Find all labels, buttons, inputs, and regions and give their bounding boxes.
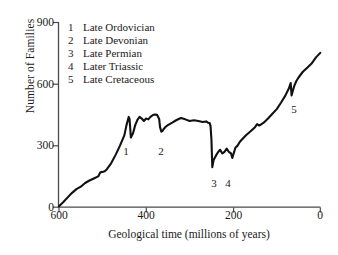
marker-5-late-cretaceous: 5 — [287, 104, 301, 115]
legend-number-2: 2 — [68, 34, 83, 47]
marker-4-later-triassic: 4 — [221, 178, 235, 189]
x-tick-0: 0 — [300, 210, 338, 222]
diversity-chart: 900 600 300 0 600 400 200 0 Number of Fa… — [0, 0, 338, 255]
marker-3-late-permian: 3 — [207, 178, 221, 189]
x-tick-200: 200 — [214, 210, 254, 222]
legend-label-3: Late Permian — [83, 47, 142, 60]
legend-number-4: 4 — [68, 60, 83, 73]
legend-item-2: 2 Late Devonian — [68, 34, 155, 47]
legend-item-4: 4 Later Triassic — [68, 60, 155, 73]
x-tick-marks — [59, 208, 320, 213]
x-axis-title: Geological time (millions of years) — [58, 228, 320, 240]
legend-item-3: 3 Late Permian — [68, 47, 155, 60]
legend-label-4: Later Triassic — [83, 60, 143, 73]
legend-label-5: Late Cretaceous — [83, 73, 154, 86]
x-tick-400: 400 — [126, 210, 166, 222]
legend-number-3: 3 — [68, 47, 83, 60]
legend-label-1: Late Ordovician — [83, 21, 155, 34]
legend: 1 Late Ordovician 2 Late Devonian 3 Late… — [68, 21, 155, 86]
y-axis-title: Number of Families — [24, 0, 36, 146]
legend-label-2: Late Devonian — [83, 34, 148, 47]
marker-1-late-ordovician: 1 — [119, 146, 133, 157]
x-tick-600: 600 — [39, 210, 79, 222]
legend-number-1: 1 — [68, 21, 83, 34]
legend-item-5: 5 Late Cretaceous — [68, 73, 155, 86]
legend-item-1: 1 Late Ordovician — [68, 21, 155, 34]
marker-2-late-devonian: 2 — [154, 146, 168, 157]
legend-number-5: 5 — [68, 73, 83, 86]
